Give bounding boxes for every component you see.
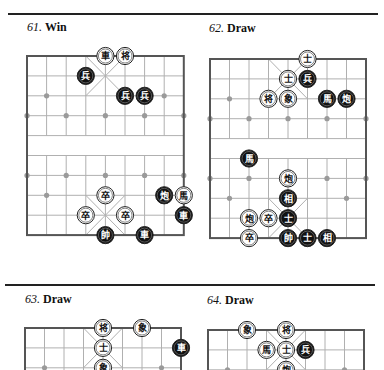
piece-red[interactable]: 象 (238, 321, 255, 338)
piece-label: 兵 (301, 344, 310, 355)
piece-label: 将 (282, 324, 291, 335)
piece-red[interactable]: 馬 (258, 341, 275, 358)
piece-label: 象 (243, 324, 252, 335)
piece-red[interactable]: 士 (277, 341, 294, 358)
piece-label: 馬 (261, 345, 271, 355)
piece-label: 炮 (282, 364, 291, 370)
piece-black[interactable]: 兵 (297, 341, 314, 358)
piece-label: 士 (282, 344, 291, 355)
xiangqi-board-64: 象将馬士兵炮 (0, 0, 384, 370)
piece-red[interactable]: 将 (277, 321, 294, 338)
piece-red[interactable]: 炮 (277, 361, 294, 370)
